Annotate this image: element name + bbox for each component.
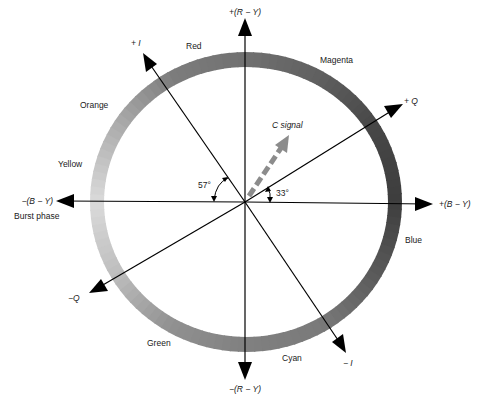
minus-q-arrowhead <box>89 279 108 293</box>
minus-r-y-arrowhead <box>238 362 252 380</box>
hue-label-orange: Orange <box>80 100 109 110</box>
burst-phase-label: Burst phase <box>14 211 60 221</box>
plus-q-label: + Q <box>404 96 418 106</box>
hue-ring-segment <box>90 194 104 203</box>
minus-q-label: −Q <box>68 293 80 303</box>
plus-i-label: + I <box>131 38 141 48</box>
minus-b-y-label: −(B − Y) <box>22 196 54 206</box>
plus-i-arrowhead <box>143 53 157 72</box>
minus-i-axis <box>245 202 342 346</box>
plus-i-axis <box>147 60 245 202</box>
plus-b-y-label: +(B − Y) <box>439 199 471 209</box>
minus-i-label: − I <box>343 358 353 368</box>
plus-r-y-arrowhead <box>238 18 252 36</box>
hue-label-blue: Blue <box>405 235 422 245</box>
plus-r-y-label: +(R − Y) <box>229 7 261 17</box>
minus-r-y-label: −(R − Y) <box>229 384 261 394</box>
hue-ring-segment <box>238 337 247 352</box>
i-angle-arrow-b <box>211 196 217 202</box>
hue-label-magenta: Magenta <box>320 55 353 65</box>
plus-q-arrowhead <box>384 104 403 118</box>
minus-i-arrowhead <box>332 334 346 353</box>
plus-b-y-arrowhead <box>415 197 433 211</box>
q-angle-label: 33° <box>276 188 289 198</box>
c-signal-label: C signal <box>272 120 304 130</box>
hue-label-cyan: Cyan <box>282 353 302 363</box>
hue-ring-segment <box>388 201 402 210</box>
hue-label-red: Red <box>186 41 202 51</box>
color-phase-diagram: +(R − Y) −(R − Y) +(B − Y) −(B − Y) Burs… <box>0 0 484 397</box>
axes <box>56 18 433 380</box>
hue-label-yellow: Yellow <box>58 159 83 169</box>
hue-ring-segment <box>245 52 254 67</box>
hue-label-green: Green <box>147 338 171 348</box>
c-signal-text: C signal <box>272 120 304 130</box>
i-angle-label: 57° <box>198 180 211 190</box>
minus-b-y-arrowhead <box>56 194 74 208</box>
minus-b-y-axis <box>62 201 245 202</box>
minus-q-axis <box>96 202 245 289</box>
